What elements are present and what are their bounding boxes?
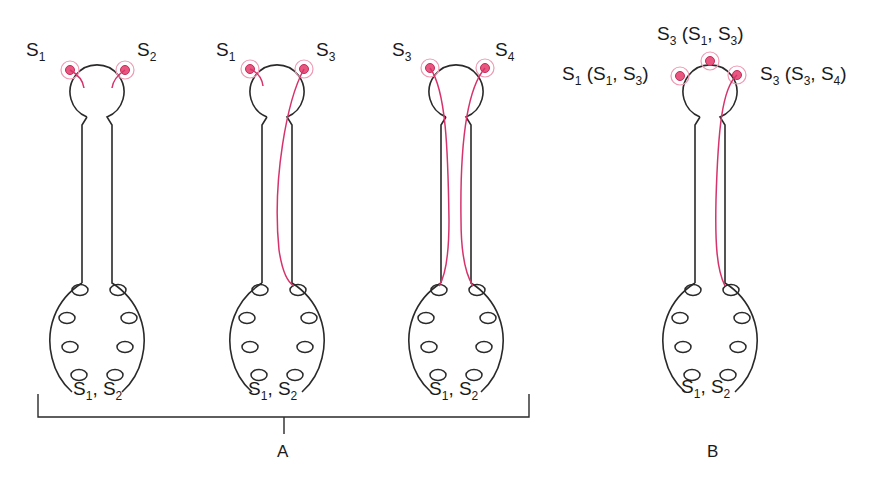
ovules [672, 285, 750, 381]
panel-label-b: B [707, 442, 718, 461]
label-b-right: S3 (S3, S4) [760, 63, 847, 88]
ovules [239, 285, 317, 381]
panel-label-a: A [277, 442, 289, 461]
label-a2-left: S1 [216, 39, 236, 64]
label-a3-left: S3 [392, 39, 412, 64]
pollen-tube-to-ovule [716, 75, 737, 286]
genotype-label-a3: S1, S2 [429, 378, 479, 403]
panel-a-bracket [38, 394, 529, 434]
pistil-a3 [409, 59, 503, 392]
label-a3-right: S4 [495, 39, 515, 64]
label-b-top: S3 (S1, S3) [657, 23, 744, 48]
pistil-b [663, 52, 757, 392]
ovules [418, 285, 496, 381]
label-a1-right: S2 [137, 39, 157, 64]
label-a2-right: S3 [316, 39, 336, 64]
genotype-label-b: S1, S2 [681, 376, 731, 401]
pollen-grain-top [701, 52, 719, 70]
pistil-a2 [230, 60, 324, 392]
pistil-a1 [50, 61, 144, 392]
genotype-label-a2: S1, S2 [248, 378, 298, 403]
self-incompatibility-diagram: S1 S2 S1 S3 S3 S4 S3 (S1, S3) S1 (S1, S3… [0, 0, 891, 486]
pollen-tube-to-ovule [277, 69, 304, 286]
pollen-grain-left [671, 67, 689, 85]
ovules [59, 285, 137, 381]
pollen-tube-to-ovule [430, 68, 449, 286]
label-b-left: S1 (S1, S3) [562, 63, 649, 88]
genotype-label-a1: S1, S2 [73, 378, 123, 403]
label-a1-left: S1 [26, 39, 46, 64]
